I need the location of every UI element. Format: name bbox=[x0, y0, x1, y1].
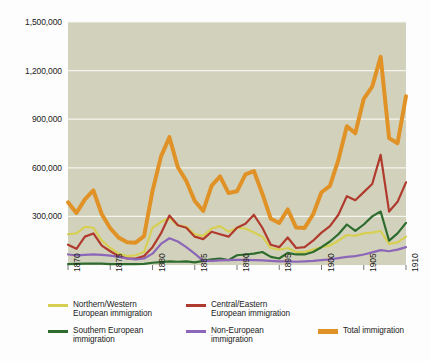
y-axis-tick-label: 300,000 bbox=[0, 211, 62, 221]
y-axis-tick-label: 1,500,000 bbox=[0, 17, 62, 27]
immigration-line-chart: 300,000600,000900,0001,200,0001,500,000 … bbox=[0, 0, 430, 361]
x-axis-tick-label: 1890 bbox=[241, 253, 251, 272]
x-axis-tick-label: 1875 bbox=[114, 253, 124, 272]
y-axis-tick-label: 1,200,000 bbox=[0, 66, 62, 76]
legend-item-total[interactable]: Total immigration bbox=[318, 326, 430, 335]
chart-legend: Northern/Western European immigration Ce… bbox=[0, 296, 430, 358]
legend-swatch-central-eastern bbox=[186, 304, 206, 307]
legend-label-northern-western: Northern/Western European immigration bbox=[73, 300, 152, 319]
legend-swatch-northern-western bbox=[48, 304, 68, 307]
x-axis-tick-label: 1885 bbox=[199, 253, 209, 272]
x-axis-tick-label: 1905 bbox=[368, 253, 378, 272]
x-axis-tick-label: 1900 bbox=[326, 253, 336, 272]
x-axis-tick-label: 1870 bbox=[72, 253, 82, 272]
legend-label-non-european: Non-European immigration bbox=[211, 326, 264, 345]
y-axis-tick-label: 600,000 bbox=[0, 163, 62, 173]
x-axis-tick-label: 1895 bbox=[283, 253, 293, 272]
legend-swatch-non-european bbox=[186, 330, 206, 333]
legend-label-total: Total immigration bbox=[343, 326, 404, 335]
legend-label-southern: Southern European immigration bbox=[73, 326, 143, 345]
x-axis-tick-label: 1880 bbox=[157, 253, 167, 272]
legend-swatch-southern bbox=[48, 330, 68, 333]
legend-item-southern[interactable]: Southern European immigration bbox=[48, 326, 180, 345]
legend-item-northern-western[interactable]: Northern/Western European immigration bbox=[48, 300, 180, 319]
legend-swatch-total bbox=[318, 329, 338, 334]
y-axis-tick-label: 900,000 bbox=[0, 114, 62, 124]
legend-item-non-european[interactable]: Non-European immigration bbox=[186, 326, 316, 345]
legend-label-central-eastern: Central/Eastern European immigration bbox=[211, 300, 290, 319]
legend-item-central-eastern[interactable]: Central/Eastern European immigration bbox=[186, 300, 316, 319]
x-axis-tick-label: 1910 bbox=[410, 253, 420, 272]
